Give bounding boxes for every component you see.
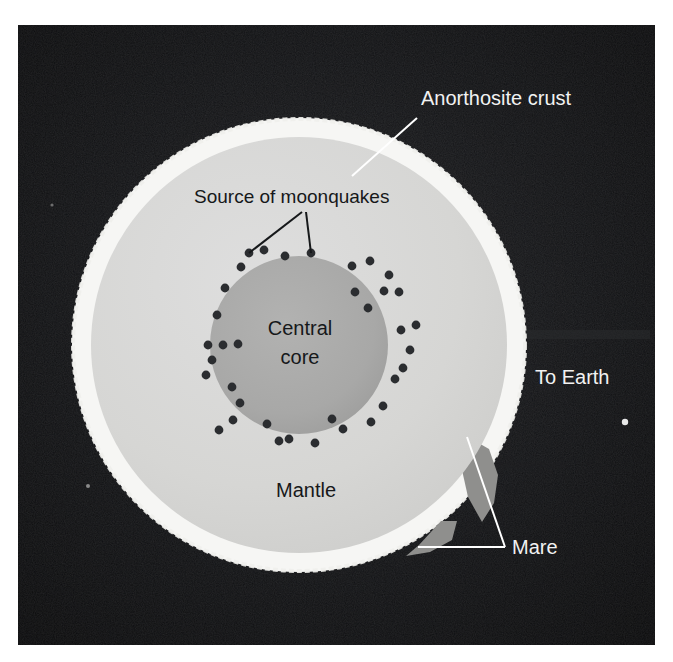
moonquake-dot [391, 375, 400, 384]
moonquake-dot [213, 311, 222, 320]
central-core-label-line2: core [281, 346, 320, 368]
moonquake-dot [399, 364, 408, 373]
moonquake-dot [275, 437, 284, 446]
moonquake-dot [234, 340, 243, 349]
moonquake-dot [364, 304, 373, 313]
anorthosite-crust-label: Anorthosite crust [421, 87, 572, 109]
moonquake-dot [311, 439, 320, 448]
moonquake-dot [219, 341, 228, 350]
moonquake-dot [380, 287, 389, 296]
moonquake-dot [221, 284, 230, 293]
moonquake-dot [202, 371, 211, 380]
star-speck-right [622, 419, 628, 425]
moonquake-dot [228, 383, 237, 392]
star-speck-lower-left [86, 484, 90, 488]
moonquake-dot [395, 288, 404, 297]
to-earth-label: To Earth [535, 366, 609, 388]
mantle-label: Mantle [276, 479, 336, 501]
moonquake-dot [237, 263, 246, 272]
moonquake-dot [385, 271, 394, 280]
plate-streak-upper [520, 330, 650, 339]
moonquake-dot [281, 252, 290, 261]
moonquake-dot [263, 420, 272, 429]
moonquake-dot [204, 341, 213, 350]
figure-root: Anorthosite crust Source of moonquakes C… [0, 0, 673, 662]
moonquake-dot [351, 288, 360, 297]
star-speck-mid-left [50, 203, 53, 206]
moonquake-dot [348, 262, 357, 271]
mare-label: Mare [512, 536, 558, 558]
moonquake-dot [406, 346, 415, 355]
moonquake-dot [208, 356, 217, 365]
moonquake-dot [328, 415, 337, 424]
moonquake-dot [285, 435, 294, 444]
moonquake-dot [379, 402, 388, 411]
moonquake-dot [397, 326, 406, 335]
moonquake-dot [339, 425, 348, 434]
lunar-interior-diagram: Anorthosite crust Source of moonquakes C… [0, 0, 673, 662]
moonquake-dot [367, 418, 376, 427]
moonquake-dot [366, 257, 375, 266]
moonquake-dot [236, 399, 245, 408]
central-core-label-line1: Central [268, 317, 332, 339]
moonquake-dot [260, 246, 269, 255]
moonquake-dot [229, 416, 238, 425]
moonquake-dot [412, 321, 421, 330]
source-of-moonquakes-label: Source of moonquakes [194, 186, 389, 207]
moonquake-dot [215, 426, 224, 435]
